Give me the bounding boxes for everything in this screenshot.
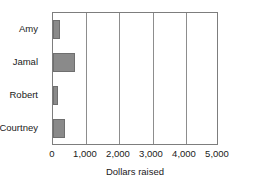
bar-chart: Amy Jamal Robert Courtney 0 1,000 2,000 …	[0, 0, 257, 183]
bar-amy	[53, 20, 60, 39]
gridline-1000	[86, 13, 87, 144]
plot-area	[52, 12, 218, 145]
bar-courtney	[53, 119, 65, 138]
gridline-2000	[119, 13, 120, 144]
category-label-courtney: Courtney	[0, 122, 38, 133]
gridline-4000	[186, 13, 187, 144]
category-label-jamal: Jamal	[0, 56, 38, 67]
bar-jamal	[53, 53, 75, 72]
category-label-amy: Amy	[0, 23, 38, 34]
xtick-label-5000: 5,000	[197, 148, 237, 159]
x-axis-title: Dollars raised	[52, 166, 218, 177]
bar-robert	[53, 86, 58, 105]
gridline-3000	[153, 13, 154, 144]
category-label-robert: Robert	[0, 89, 38, 100]
